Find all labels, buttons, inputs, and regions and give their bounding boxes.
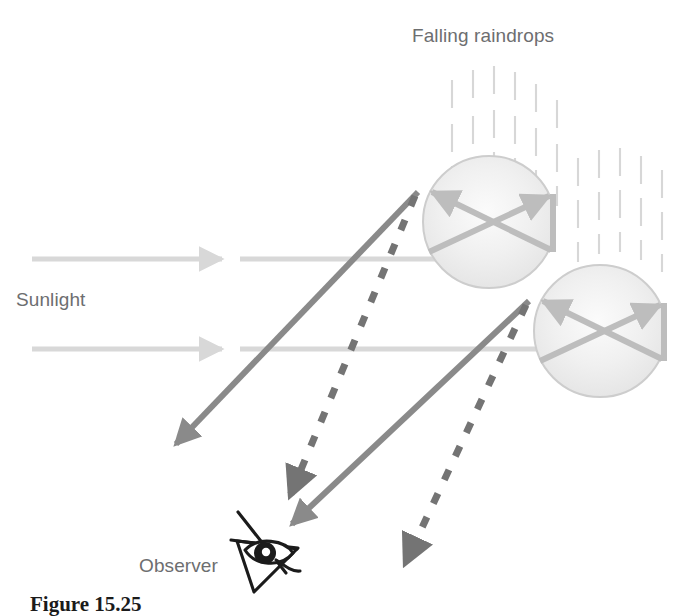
- falling-raindrops-label: Falling raindrops: [412, 26, 554, 45]
- sunlight-label: Sunlight: [16, 290, 85, 309]
- figure-caption: Figure 15.25: [30, 594, 142, 615]
- exit-ray-dashed-lower: [405, 305, 526, 564]
- exit-ray-solid-lower: [292, 301, 529, 524]
- raindrop-lower-group: [534, 265, 666, 397]
- raindrop-upper-group: [423, 156, 555, 288]
- exit-ray-dashed-upper: [290, 196, 415, 496]
- rain-streaks-right: [578, 148, 662, 272]
- observer-label: Observer: [139, 556, 218, 575]
- observer-eye-icon: [231, 512, 300, 592]
- exit-ray-solid-upper: [176, 192, 418, 444]
